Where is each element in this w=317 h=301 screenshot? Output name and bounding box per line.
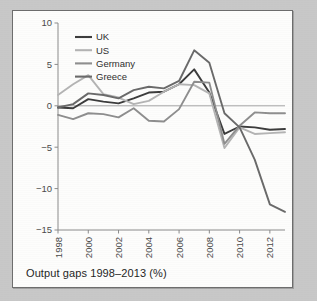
x-axis-tick-label: 2012 — [264, 237, 275, 258]
legend-label-us: US — [96, 45, 109, 56]
legend-label-germany: Germany — [96, 58, 135, 69]
legend-label-greece: Greece — [96, 71, 127, 82]
y-axis-tick-label: −5 — [41, 142, 52, 153]
figure-page: 1050−5−10−151998200020022004200620082010… — [0, 0, 317, 301]
series-line-us — [58, 75, 285, 148]
legend-label-uk: UK — [96, 31, 110, 42]
figure-panel: 1050−5−10−151998200020022004200620082010… — [12, 10, 293, 288]
series-line-greece — [58, 50, 285, 211]
x-axis-tick-label: 2004 — [143, 237, 154, 258]
y-axis-tick-label: 0 — [47, 100, 52, 111]
figure-caption: Output gaps 1998–2013 (%) — [26, 267, 167, 279]
line-chart: 1050−5−10−151998200020022004200620082010… — [13, 11, 294, 259]
chart-plot-area: 1050−5−10−151998200020022004200620082010… — [13, 11, 294, 259]
x-axis-tick-label: 1998 — [53, 237, 64, 258]
x-axis-tick-label: 2006 — [174, 237, 185, 258]
y-axis-tick-label: −15 — [36, 224, 52, 235]
y-axis-tick-label: 10 — [41, 17, 52, 28]
y-axis-tick-label: −10 — [36, 183, 52, 194]
x-axis-tick-label: 2010 — [234, 237, 245, 258]
series-line-germany — [58, 82, 285, 144]
y-axis-tick-label: 5 — [47, 59, 52, 70]
x-axis-tick-label: 2000 — [83, 237, 94, 258]
x-axis-tick-label: 2002 — [113, 237, 124, 258]
x-axis-tick-label: 2008 — [204, 237, 215, 258]
